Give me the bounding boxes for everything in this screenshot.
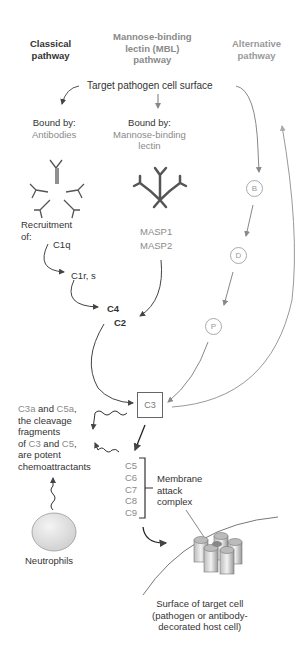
c4: C4 [107,303,119,315]
classical-bound-by: Bound by:Antibodies [32,117,76,140]
mac-components: C5C6C7C8C9 [125,460,137,519]
arrow-to-classical [62,86,79,104]
mac-pore-illustration [194,533,242,575]
mac-bracket [139,458,153,518]
c2: C2 [114,317,126,329]
chemoattractant-text: C3a and C5a, the cleavage fragments of C… [18,403,91,472]
mbl-bound-by: Bound by:Mannose-bindinglectin [113,117,186,152]
arrow-to-alternative [236,86,259,172]
header-alternative: Alternativepathway [232,38,281,61]
c1rs: C1r, s [71,270,96,282]
factor-p: P [205,318,222,335]
surface-caption: Surface of target cell(pathogen or antib… [152,598,248,633]
arrow-c3-feedback [172,126,294,407]
factor-b: B [246,180,263,197]
neutrophils-label: Neutrophils [25,555,73,567]
factor-d: D [230,247,247,264]
header-mbl: Mannose-bindinglectin (MBL)pathway [113,31,192,66]
target-surface-label: Target pathogen cell surface [87,80,213,92]
neutrophil-cell-icon [32,513,76,551]
c1q: C1q [53,239,70,251]
c3-box: C3 [137,392,163,418]
mac-pointer [186,510,204,537]
header-classical: Classicalpathway [30,38,71,61]
antibodies-icon [30,160,84,218]
mbl-lectin-icon [134,168,186,207]
mac-label: Membraneattackcomplex [157,473,202,508]
masp-labels: MASP1MASP2 [140,225,172,253]
